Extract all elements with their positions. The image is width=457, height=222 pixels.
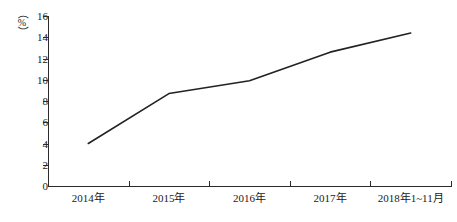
line-chart-figure: （ % ） 0246810121416 2014年2015年2016年2017年… (0, 0, 457, 222)
chart-plot-area (0, 0, 457, 222)
data-series-line (88, 33, 410, 144)
